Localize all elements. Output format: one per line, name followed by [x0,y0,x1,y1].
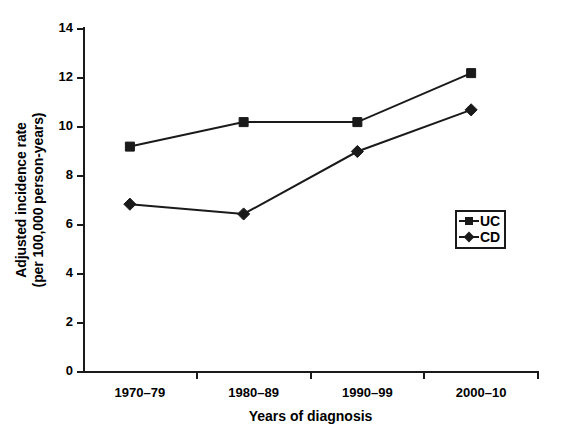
x-axis-tick [423,372,425,379]
legend-label: UC [480,214,500,228]
data-point-uc [467,69,476,78]
data-point-cd [124,198,136,210]
y-axis-title: Adjusted incidence rate (per 100,000 per… [0,0,60,400]
data-point-uc [239,118,248,127]
y-axis-tick-label: 14 [59,20,73,35]
x-axis-title: Years of diagnosis [83,408,538,424]
series-line-cd [130,110,471,214]
data-point-cd [238,208,250,220]
y-axis-tick-label: 4 [66,265,73,280]
y-axis-title-line-2: (per 100,000 person-years) [30,113,47,288]
x-axis-tick-label: 2000–10 [456,385,507,400]
y-axis-tick-label: 10 [59,118,73,133]
y-axis-tick-label: 6 [66,216,73,231]
x-axis-tick-label: 1980–89 [228,385,279,400]
series-line-uc [130,73,471,147]
y-axis-title-line-1: Adjusted incidence rate [13,113,30,288]
y-axis-tick-label: 12 [59,69,73,84]
y-axis-tick-label: 2 [66,314,73,329]
data-point-cd [351,145,363,157]
plot-area: 02468101214 1970–791980–891990–992000–10 [83,29,538,372]
y-axis-tick-label: 0 [66,363,73,378]
series-layer [83,29,538,372]
incidence-rate-line-chart: Adjusted incidence rate (per 100,000 per… [0,0,564,434]
chart-legend: UCCD [455,210,506,249]
x-axis-tick-label: 1990–99 [342,385,393,400]
x-axis-tick-end [537,372,539,379]
square-marker-icon [459,214,479,228]
data-point-uc [353,118,362,127]
x-axis-tick-label: 1970–79 [115,385,166,400]
data-point-cd [465,104,477,116]
y-axis-tick-label: 8 [66,167,73,182]
diamond-marker-icon [459,230,479,244]
data-point-uc [125,142,134,151]
x-axis-tick [310,372,312,379]
legend-label: CD [480,230,500,244]
x-axis-tick [196,372,198,379]
legend-item-cd[interactable]: CD [459,229,500,245]
legend-item-uc[interactable]: UC [459,213,500,229]
